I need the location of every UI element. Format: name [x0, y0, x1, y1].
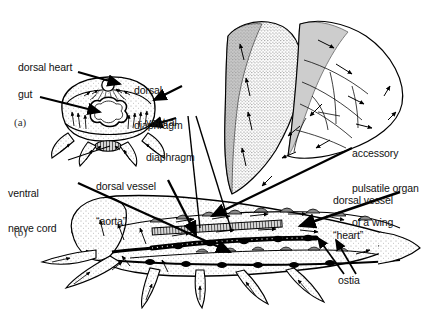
- label-dorsal-vessel-aorta-line2: “aorta”: [96, 216, 156, 228]
- label-ventral-nerve-cord-line1: ventral: [8, 188, 57, 200]
- label-dorsal-vessel-aorta: dorsal vessel “aorta”: [96, 158, 156, 239]
- label-dorsal-vessel-heart-line2: “heart”: [333, 230, 393, 242]
- label-dorsal-heart: dorsal heart: [18, 62, 72, 74]
- panel-label-b: (b): [14, 226, 27, 238]
- label-gut: gut: [18, 89, 32, 101]
- label-dorsal-vessel-heart: dorsal vessel “heart”: [333, 172, 393, 253]
- panel-label-a: (a): [14, 116, 26, 128]
- label-ostia: ostia: [338, 275, 360, 287]
- label-accessory-line1: accessory: [352, 148, 419, 160]
- label-dorsal-vessel-aorta-line1: dorsal vessel: [96, 181, 156, 193]
- label-dorsal-vessel-heart-line1: dorsal vessel: [333, 195, 393, 207]
- label-ventral-diaphragm-line1: ventral: [146, 117, 195, 129]
